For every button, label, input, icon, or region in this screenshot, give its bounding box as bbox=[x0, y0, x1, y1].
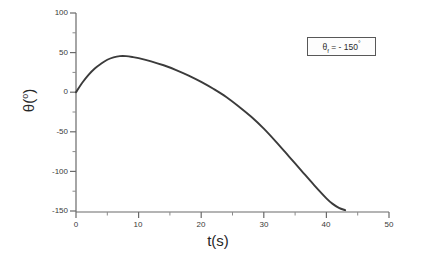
x-tick-label-50: 50 bbox=[379, 220, 399, 229]
y-tick-label-neg150: -150 bbox=[38, 206, 68, 215]
x-axis-title: t(s) bbox=[168, 232, 268, 249]
x-tick-label-40: 40 bbox=[316, 220, 336, 229]
y-axis-title-symbol: θ( bbox=[20, 99, 37, 112]
annotation-value: = - 150 bbox=[331, 42, 358, 52]
annotation-box: θf = - 150° bbox=[307, 37, 376, 56]
x-tick-label-20: 20 bbox=[191, 220, 211, 229]
data-series-line bbox=[76, 56, 345, 210]
chart-figure: 100 50 0 -50 -100 -150 0 10 20 30 40 50 … bbox=[0, 0, 425, 266]
annotation-text: θf = - 150° bbox=[322, 40, 360, 54]
x-tick-label-10: 10 bbox=[128, 220, 148, 229]
y-tick-label-0: 0 bbox=[40, 87, 68, 96]
y-axis-title: θ(o) bbox=[20, 79, 37, 123]
annotation-subscript: f bbox=[327, 47, 329, 53]
annotation-degree: ° bbox=[358, 40, 361, 47]
y-tick-label-neg100: -100 bbox=[40, 167, 68, 176]
degree-symbol: o bbox=[20, 94, 30, 99]
y-tick-label-neg50: -50 bbox=[40, 127, 68, 136]
y-tick-label-100: 100 bbox=[40, 8, 68, 17]
x-tick-label-0: 0 bbox=[66, 220, 86, 229]
x-tick-label-30: 30 bbox=[254, 220, 274, 229]
y-tick-label-50: 50 bbox=[40, 48, 68, 57]
